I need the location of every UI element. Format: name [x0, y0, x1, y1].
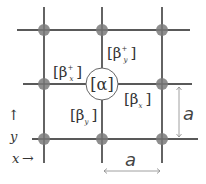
- bond-label-x: [βx]: [124, 90, 151, 110]
- horizontal-dimension-label: a: [125, 149, 136, 170]
- bond-label-x-plus: [β+x]: [53, 63, 82, 83]
- atom-middle-right: [156, 78, 168, 90]
- bond-label-text: [β: [107, 44, 122, 62]
- y-axis-label: y: [9, 129, 18, 144]
- bond-label-y: [βy]: [70, 106, 97, 126]
- bond-label-close: ]: [76, 63, 82, 81]
- bond-label-y-plus: [β+y]: [107, 44, 136, 64]
- atom-bottom-right: [156, 133, 168, 145]
- x-axis-arrow-icon: →: [22, 150, 34, 166]
- bond-label-sub: y: [122, 56, 128, 64]
- bond-label-text: [β: [124, 90, 139, 108]
- atom-bottom-left: [38, 133, 50, 145]
- vertical-dimension-arrow: [177, 87, 182, 137]
- svg-text:[βy]: [βy]: [70, 106, 97, 126]
- svg-text:[β+y]: [β+y]: [107, 44, 136, 64]
- atom-middle-left: [38, 78, 50, 90]
- bond-label-text: [β: [53, 63, 68, 81]
- bond-label-close: ]: [145, 90, 151, 108]
- atom-bottom-middle: [96, 133, 108, 145]
- center-site-label: [α]: [90, 75, 113, 94]
- atom-top-middle: [96, 24, 108, 36]
- y-axis-arrow-icon: ↑: [8, 107, 20, 123]
- bond-label-sub: y: [84, 118, 90, 126]
- bond-label-close: ]: [92, 106, 98, 124]
- atom-top-right: [156, 24, 168, 36]
- bond-label-close: ]: [130, 44, 136, 62]
- x-axis-label: x: [12, 151, 20, 166]
- vertical-dimension-label: a: [183, 103, 194, 124]
- bond-label-sub: x: [69, 75, 73, 83]
- bond-label-text: [β: [70, 106, 85, 124]
- svg-text:[β+x]: [β+x]: [53, 63, 82, 83]
- bond-label-sub: x: [139, 102, 143, 110]
- lattice-diagram: [α] [β+y] [β+x] [βx] [βy] ↑ y x → a a: [0, 0, 206, 184]
- bond-label-sup: +: [68, 64, 74, 72]
- bond-label-sup: +: [122, 45, 128, 53]
- atom-top-left: [38, 24, 50, 36]
- svg-text:[βx]: [βx]: [124, 90, 151, 110]
